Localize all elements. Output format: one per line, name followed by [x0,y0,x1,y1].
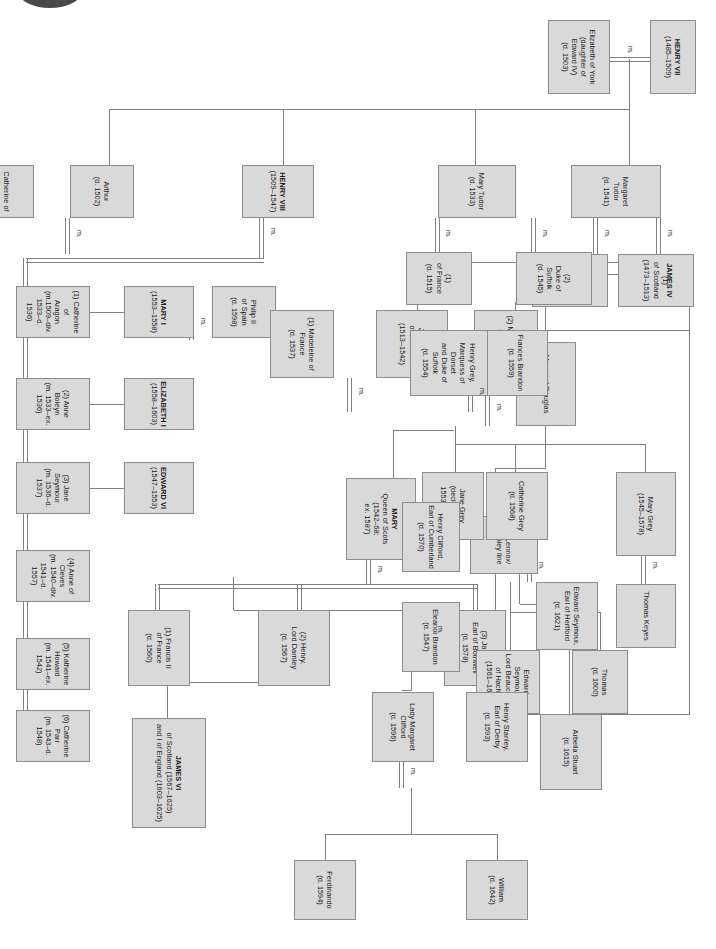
node-ferdinando[interactable]: Ferdinando (d. 1594) [294,860,356,920]
node-louis-xii-dates: (1) of France (d. 1515) [425,263,453,294]
marriage-label-henryvii: m. [627,46,634,54]
node-arbella-stuart[interactable]: Arbella Stuart (d. 1615) [540,714,602,790]
connector-margaretdouglas-to-lennox [545,426,546,468]
node-wife-6-label: (6) Catherine Parr (m. 1543–d. 1548) [35,714,72,757]
node-elizabeth-of-york[interactable]: Elizabeth of York(daughter of Edward IV)… [548,20,610,94]
node-edward-seymour-hertford[interactable]: Edward Seymour, Earl of Hertford (d. 162… [536,582,598,650]
connector-wives-bus-v [26,258,264,263]
node-henry-vii-name: HENRY VII [673,23,682,91]
node-margaret-clifford[interactable]: Lady Margaret Clifford (d. 1596) [372,692,434,762]
node-wife-1-catherine-aragon[interactable]: (1) Catherine of Aragon (m.1509–div. 153… [16,286,90,338]
node-philip-ii-name: Philip II [249,300,258,324]
connector-henryvii-children-bus [629,59,630,109]
marriage-label-margaretclifford-stanley: m. [410,768,417,776]
node-frances-brandon[interactable]: Frances Brandon (d. 1559) [484,330,548,396]
node-catherine-of-aragon-arthur[interactable]: Catherine of Aragon [0,165,34,218]
node-thomas-keyes[interactable]: Thomas Keyes [616,584,676,648]
node-henry-vii[interactable]: HENRY VII(1485–1509) [650,20,696,94]
connector-to-thomas-seymour [600,612,601,650]
node-arthur[interactable]: Arthur(d. 1502) [70,165,134,218]
connector-arthur-catherine [65,218,70,254]
connector-to-william [497,834,498,860]
marriage-label-arthur-catherine: m. [76,230,83,238]
node-mqs-name: MARY [390,481,399,557]
connector-lennox-to-darnley [495,574,496,610]
node-charles-brandon-dates: (2) Duke of Suffolk (d. 1545) [536,264,573,294]
node-ferdinando-label: Ferdinando (d. 1594) [316,871,334,908]
node-hertford-label: Edward Seymour, Earl of Hertford (d. 162… [553,587,581,645]
node-james-vi[interactable]: JAMES VIof Scotland (1567–1625) and I of… [132,718,206,828]
node-margaret-tudor-dates: (d. 1541) [602,168,611,215]
connector-to-jane-grey [455,444,456,472]
node-charles-brandon[interactable]: (2) Duke of Suffolk (d. 1545) [516,252,592,305]
rotated-diagram-container: HENRY VII(1485–1509) Elizabeth of York(d… [0,0,716,949]
node-henry-stanley[interactable]: Henry Stanley, Earl of Derby (d. 1593) [466,692,528,762]
node-margaret-tudor[interactable]: Margaret Tudor(d. 1541) [571,165,661,218]
marriage-label-henryviii-wives: m. [270,228,277,236]
connector-mqs-bothwell [473,584,478,610]
connector-to-arthur [109,109,110,165]
node-mary-tudor-name: Mary Tudor [477,173,486,210]
node-edward-vi-dates: (1547–1553) [150,465,159,511]
marriage-label-margaret-archibald: m. [604,230,611,238]
node-elizabeth-i[interactable]: ELIZABETH I(1558–1603) [124,378,194,430]
node-wife-2-anne-boleyn[interactable]: (2) Anne Boleyn (m. 1533–ex. 1536) [16,378,90,430]
connector-jamesv-madeleine [347,378,352,412]
connector-wife2-to-elizabethi [90,404,124,405]
node-catherine-grey[interactable]: Catherine Grey (d. 1568) [486,472,548,540]
node-margaret-tudor-name: Margaret Tudor [612,177,630,207]
connector-lennox-arbella-out [519,574,520,604]
connector-stanley-sons-v [326,834,498,835]
diagram-canvas: HENRY VII(1485–1509) Elizabeth of York(d… [0,0,716,949]
marriage-label-mary-louis: m. [445,230,452,238]
node-william[interactable]: William (d. 1642) [466,860,528,920]
node-william-label: William (d. 1642) [488,875,506,905]
node-margaret-clifford-label: Lady Margaret Clifford (d. 1596) [389,703,417,751]
node-henry-viii[interactable]: HENRY VIII(1509–1547) [242,165,314,218]
node-mary-i[interactable]: MARY I(1553–1558) [124,286,194,338]
connector-to-henry-viii [283,109,284,165]
connector-mqs-marriage-bus [366,560,371,584]
node-mary-tudor[interactable]: Mary Tudor(d. 1533) [438,165,516,218]
node-thomas-seymour[interactable]: Thomas (d. 1600) [572,650,628,714]
node-mary-i-dates: (1553–1558) [150,289,159,335]
node-wife-3-jane-seymour[interactable]: (3) Jane Seymour (m. 1536–d. 1537) [16,462,90,514]
node-elizabeth-of-york-name: Elizabeth of York [589,29,598,84]
family-tree-page: HENRY VII(1485–1509) Elizabeth of York(d… [0,0,716,949]
node-darnley-label: (2) Henry, Lord Darnley (d. 1567) [280,627,308,669]
connector-marytudor-louis [435,218,440,252]
connector-wife3-to-edwardvi [90,488,124,489]
node-henry-clifford[interactable]: Henry Clifford, Earl of Cumberland (d. 1… [402,502,460,572]
node-philip-ii[interactable]: Philip IIof Spain (d. 1598) [212,286,276,338]
node-arthur-name: Arthur [102,181,111,201]
node-louis-xii[interactable]: (1) of France (d. 1515) [406,252,472,305]
node-edward-vi[interactable]: EDWARD VI(1547–1553) [124,462,194,514]
connector-frances-henrygrey [485,396,490,426]
connector-mqs-francis [155,584,160,610]
node-eleanor-brandon-label: Eleanor Brandon (d. 1547) [422,609,440,664]
node-henry-stanley-label: Henry Stanley, Earl of Derby (d. 1593) [483,703,511,751]
node-eleanor-brandon[interactable]: Eleanor Brandon (d. 1547) [402,602,460,672]
marriage-label-jamesv-madeleine: m. [358,388,365,396]
node-wife-4-anne-cleves[interactable]: (4) Anne of Cleves (m. 1540–div. 1541–d.… [16,550,90,602]
connector-to-mary-grey [645,444,646,472]
node-wife-6-catherine-parr[interactable]: (6) Catherine Parr (m. 1543–d. 1548) [16,710,90,762]
node-francis-ii[interactable]: (1) Francis II of France (d. 1560) [128,610,190,686]
node-mary-grey[interactable]: Mary Grey (1545–1578) [616,472,676,556]
connector-seymour-sons-out [510,582,511,612]
connector-to-catherine-grey [515,444,516,472]
node-madeleine-of-france[interactable]: (1) Madeleine of France (d. 1537) [270,310,334,378]
node-henry-vii-dates: (1485–1509) [664,23,673,91]
node-henry-clifford-label: Henry Clifford, Earl of Cumberland (d. 1… [417,505,445,569]
connector-to-beauchamp [510,612,511,650]
node-wife-1-label: (1) Catherine of Aragon (m.1509–div. 153… [26,290,81,333]
connector-mqs-husbands-v [158,584,478,589]
connector-mqs-drop [394,430,454,431]
node-wife-5-katherine-howard[interactable]: (5) Katherine Howard (m. 1541–ex. 1542) [16,638,90,690]
node-elizabeth-of-york-dates: (daughter of Edward IV) (d. 1503) [561,23,589,91]
node-henry-grey[interactable]: Henry Grey, Marquess of Dorset and Duke … [410,330,488,396]
connector-grey-children-v [456,444,646,445]
node-elizabeth-i-dates: (1558–1603) [150,381,159,427]
node-lord-darnley[interactable]: (2) Henry, Lord Darnley (d. 1567) [258,610,330,686]
node-henry-grey-label: Henry Grey, Marquess of Dorset and Duke … [422,343,477,384]
